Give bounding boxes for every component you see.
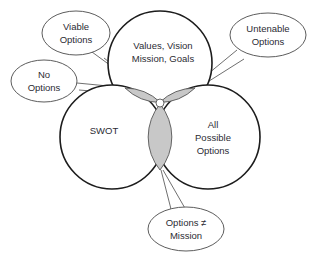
callout-no-options-line2: Options xyxy=(28,82,61,93)
callout-viable-options[interactable]: Viable Options xyxy=(42,11,110,55)
label-all-possible-options-line1: All xyxy=(208,119,219,130)
callout-untenable-options-line1: Untenable xyxy=(246,23,289,34)
label-swot: SWOT xyxy=(90,125,119,136)
callout-options-not-mission[interactable]: Options ≠ Mission xyxy=(148,207,224,251)
label-all-possible-options-line2: Possible xyxy=(195,132,231,143)
label-values-vision-line1: Values, Vision xyxy=(133,40,192,51)
venn-diagram-svg: Values, Vision Mission, Goals SWOT All P… xyxy=(0,0,315,257)
callout-options-not-mission-line1: Options ≠ xyxy=(166,217,207,228)
callout-no-options[interactable]: No Options xyxy=(11,60,77,102)
callout-untenable-options-line2: Options xyxy=(252,36,285,47)
venn-center-intersection-dot[interactable] xyxy=(156,99,164,107)
callout-options-not-mission-line2: Mission xyxy=(170,230,202,241)
callout-viable-options-line1: Viable xyxy=(63,21,89,32)
callout-viable-options-line2: Options xyxy=(60,34,93,45)
label-values-vision-line2: Mission, Goals xyxy=(132,53,195,64)
callout-no-options-line1: No xyxy=(38,69,50,80)
venn-diagram-canvas: Values, Vision Mission, Goals SWOT All P… xyxy=(0,0,315,257)
callout-untenable-options[interactable]: Untenable Options xyxy=(230,13,306,57)
label-all-possible-options-line3: Options xyxy=(197,145,230,156)
